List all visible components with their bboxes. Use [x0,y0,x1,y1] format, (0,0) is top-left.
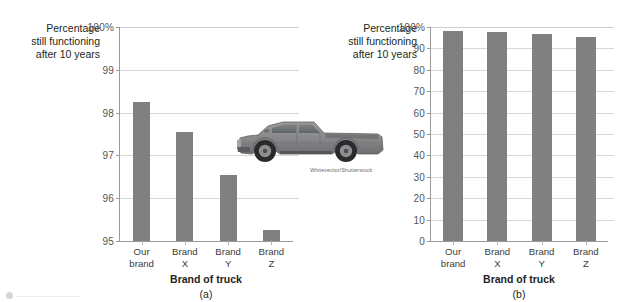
x-axis-title-a: Brand of truck [119,273,293,285]
y-axis-tick [116,241,120,242]
x-axis-label-line: Our [441,246,466,258]
y-axis-tick-label: 99 [102,64,114,75]
y-axis-tick-label: 97 [102,150,114,161]
x-axis-label-line: Brand [485,246,511,258]
bar [576,37,596,241]
y-axis-tick [427,48,431,49]
bar [487,32,507,241]
corner-watermark [6,290,80,300]
y-axis-tick-label: 40 [413,150,425,161]
x-axis-label-line: X [485,258,511,270]
watermark-dot [6,292,13,299]
x-axis-tick [497,241,498,245]
x-axis-label-line: Brand [172,246,198,258]
x-axis-title-b: Brand of truck [430,273,608,285]
bar [532,34,552,241]
x-axis-label-line: Y [215,258,241,270]
gridline [120,27,299,28]
y-axis-caption-line: Percentage [8,22,100,35]
y-axis-tick [427,155,431,156]
y-axis-tick-label: 100% [88,22,114,33]
bar [263,230,280,241]
x-axis-tick-label: Ourbrand [441,246,466,269]
x-axis-label-line: X [172,258,198,270]
y-axis-tick-label: 30 [413,171,425,182]
y-axis-tick-label: 90 [413,43,425,54]
y-axis-tick-label: 60 [413,107,425,118]
x-axis-label-line: Brand [573,246,599,258]
x-axis-label-line: Y [529,258,555,270]
y-axis-tick-label: 96 [102,193,114,204]
y-axis-tick [116,113,120,114]
y-axis-tick [427,113,431,114]
y-axis-caption-line: still functioning [8,35,100,48]
y-axis-tick-label: 80 [413,64,425,75]
x-axis-tick [142,241,143,245]
x-axis-tick [228,241,229,245]
x-axis-tick [271,241,272,245]
y-axis-tick [427,241,431,242]
x-axis-label-line: Z [573,258,599,270]
gridline [431,27,614,28]
x-axis-label-line: Brand [215,246,241,258]
x-axis-label-line: Brand [529,246,555,258]
y-axis-tick [427,134,431,135]
gridline [120,70,299,71]
y-axis-tick-label: 20 [413,193,425,204]
y-axis-tick [427,177,431,178]
panel-letter-a: (a) [119,288,293,300]
x-axis-tick [185,241,186,245]
y-axis-tick [116,155,120,156]
x-axis-tick-label: BrandZ [573,246,599,269]
y-axis-tick [427,27,431,28]
y-axis-tick [427,70,431,71]
y-axis-tick-label: 10 [413,214,425,225]
y-axis-caption-a: Percentage still functioning after 10 ye… [8,22,100,61]
figure-root: Percentage still functioning after 10 ye… [0,0,626,302]
x-axis-tick-label: BrandZ [259,246,285,269]
x-axis-label-line: brand [129,258,154,270]
y-axis-tick [116,198,120,199]
y-axis-tick [116,70,120,71]
x-axis-tick [453,241,454,245]
watermark-rule [16,296,80,297]
y-axis-caption-line: still functioning [321,35,417,48]
x-axis-label-line: Brand [259,246,285,258]
y-axis-tick-label: 70 [413,86,425,97]
y-axis-tick [116,27,120,28]
bar [133,102,150,241]
y-axis-tick-label: 100% [399,22,425,33]
y-axis-tick-label: 95 [102,236,114,247]
x-axis-tick [586,241,587,245]
y-axis-caption-line: after 10 years [8,48,100,61]
y-axis-tick [427,198,431,199]
x-axis-label-line: Z [259,258,285,270]
panel-letter-b: (b) [430,288,608,300]
x-axis-label-line: brand [441,258,466,270]
y-axis-tick-label: 50 [413,129,425,140]
bar [443,31,463,241]
x-axis-tick-label: BrandY [529,246,555,269]
x-axis-label-line: Our [129,246,154,258]
y-axis-tick [427,220,431,221]
x-axis-tick-label: BrandX [485,246,511,269]
x-axis-tick [542,241,543,245]
y-axis-tick-label: 98 [102,107,114,118]
y-axis-tick [427,91,431,92]
x-axis-tick-label: BrandY [215,246,241,269]
chart-panel-b: Percentage still functioning after 10 ye… [313,0,626,302]
y-axis-tick-label: 0 [419,236,425,247]
bar [176,132,193,241]
plot-area-b: 0102030405060708090100%OurbrandBrandXBra… [430,27,608,242]
y-axis-caption-line: after 10 years [321,48,417,61]
x-axis-tick-label: BrandX [172,246,198,269]
bar [220,175,237,241]
x-axis-tick-label: Ourbrand [129,246,154,269]
